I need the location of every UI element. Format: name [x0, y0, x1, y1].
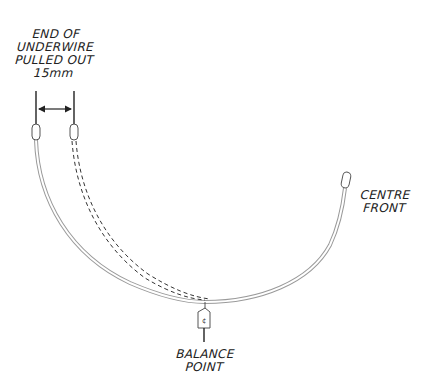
label-line: FRONT	[354, 202, 415, 215]
label-line: POINT	[171, 361, 238, 374]
underwire-original	[32, 124, 352, 302]
label-end-of-underwire: END OF UNDERWIRE PULLED OUT 15mm	[3, 28, 107, 80]
label-centre-front: CENTRE FRONT	[354, 189, 416, 215]
underwire-pulled-out	[70, 124, 210, 300]
wire-end-cap-centre-front	[340, 171, 351, 188]
measurement-indicator	[36, 91, 74, 129]
balance-point-tag: ¢	[198, 302, 210, 342]
svg-text:¢: ¢	[202, 317, 206, 325]
wire-end-cap-pulled	[70, 124, 78, 140]
wire-end-cap-left	[32, 124, 40, 140]
label-line: 15mm	[3, 67, 104, 80]
label-balance-point: BALANCE POINT	[171, 348, 239, 374]
